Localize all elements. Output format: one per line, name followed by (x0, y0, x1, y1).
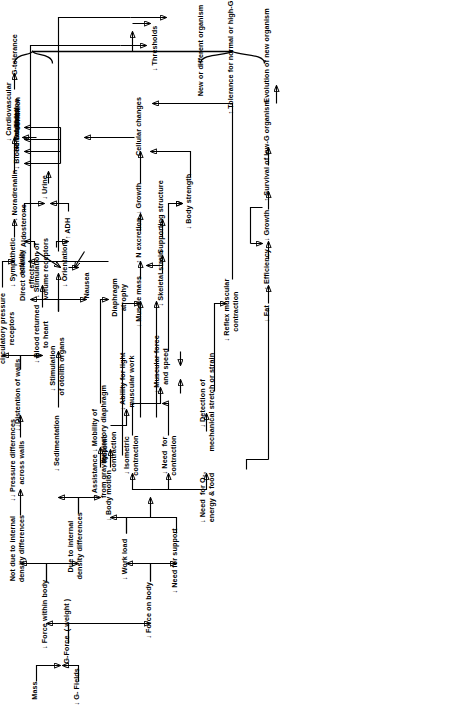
node-g-fields: ↓ G- Fields (72, 673, 81, 705)
node-g-force: ↓ G-Force ( weight ) (62, 599, 71, 669)
node-body-strength: ↓ Body strength (184, 175, 193, 229)
node-sedimentation: ↓ Sedimentation (52, 405, 61, 481)
node-body-motion: ↓ Body motion (104, 469, 113, 521)
node-ability-light-work: ↓ Ability for light muscular work (118, 349, 135, 413)
node-cellular-changes: Cellular changes (134, 95, 143, 157)
node-cardiovascular: ↓ Cardiovascular condition (4, 85, 21, 141)
node-not-due-density: Not due to internal density differences (8, 513, 25, 583)
node-force-within: ↓ Force within body (40, 579, 49, 649)
node-due-density: Due to internal density differences (66, 513, 83, 579)
node-evolution: Evolution of new organism (262, 3, 271, 107)
node-urine: ↓ Urine (40, 171, 49, 203)
node-need-contraction: ↓ Need for contraction (160, 431, 177, 479)
node-need-for-support: ↓ Need for support (170, 531, 179, 593)
node-growth-bottom: ↓ Growth (262, 207, 271, 243)
node-mass: Mass (30, 677, 39, 703)
node-efficiency: ↑ Efficiency (262, 247, 271, 291)
node-isometric: ↓ Isometric contraction (122, 431, 139, 479)
node-stim-otolith: ↓ Stimulation of otolith organs (48, 341, 65, 395)
node-detection-stretch: ↓ Detection of mechanical stretch or str… (198, 355, 215, 451)
node-need-o2: ↓ Need for O₂, energy & food (198, 471, 215, 523)
node-muscle-mass: ↓ Muscle mass (134, 277, 143, 327)
node-noradrenalin: ↓ Noradrenalin (10, 169, 19, 221)
node-fat: ↓ Fat (262, 301, 271, 325)
node-diaphragm-atrophy: Diaphragm atrophy (110, 269, 127, 325)
node-n-excretion: ↑ N excretion (134, 215, 143, 265)
node-pressure-differences: ↓↓ Pressure differences across walls (8, 423, 25, 501)
node-tolerance-normal: ↑ Tolerance for normal or high-G (226, 0, 235, 121)
node-nausea: Nausea (82, 267, 91, 303)
node-isotonic: ↓ Isotonic contraction (100, 427, 117, 475)
node-new-organism: New or different organism (196, 0, 205, 103)
node-distention-walls: ↓↓Distention of walls (13, 359, 22, 431)
node-supporting-structure: ↓ Supporting structure (156, 185, 165, 259)
node-reflex-muscular: ↓ Reflex muscular contraction (222, 281, 239, 341)
node-g-tolerance: ↓ G-tolerance (10, 31, 19, 83)
node-force-on-body: ↓ Force on body (144, 579, 153, 641)
node-direct-cellular: Direct cellular effects (18, 247, 35, 305)
node-survival-low-g: ↑ Survival of low-G organism (262, 101, 271, 201)
node-altered-stimulation: Altered Stimulation of circulatory press… (0, 287, 15, 369)
node-orientation: ↓ Orientation (60, 239, 69, 289)
node-growth-top: ↓ Growth (134, 179, 143, 217)
node-thresholds: ↓ Thresholds (150, 23, 159, 73)
node-work-load: ↓ Work load (120, 535, 129, 583)
node-muscular-force: ↓ Muscular force and speed (152, 339, 169, 393)
